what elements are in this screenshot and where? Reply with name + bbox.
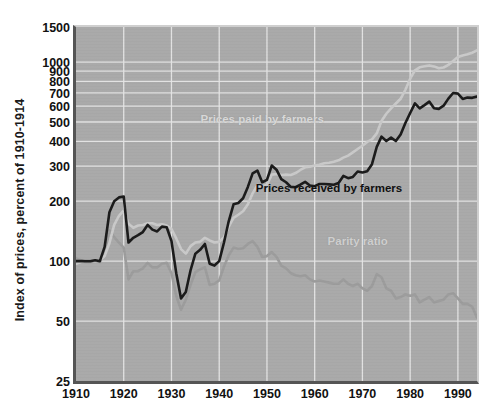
plot-area [73,25,479,384]
annotation-prices_paid: Prices paid by farmers [200,114,323,126]
y-tick-label: 600 [24,101,70,114]
annotation-parity_ratio: Parity ratio [328,236,388,248]
y-tick-label: 500 [24,117,70,130]
x-tick-label: 1930 [158,388,186,401]
x-tick-label: 1990 [444,388,472,401]
x-tick-label: 1920 [110,388,138,401]
chart-figure: Index of prices, percent of 1910-1914 15… [0,0,500,420]
series-line-parity_ratio [76,230,477,317]
y-tick-label: 700 [24,88,70,101]
x-tick-label: 1940 [205,388,233,401]
annotation-prices_received: Prices received by farmers [256,184,402,196]
y-tick-label: 400 [24,136,70,149]
x-tick-label: 1950 [253,388,281,401]
y-tick-label: 100 [24,256,70,269]
y-axis-tick-labels: 150010009008007006005004003002001005025 [22,0,70,420]
y-tick-label: 300 [24,161,70,174]
series-line-prices_paid [76,50,477,263]
y-tick-label: 200 [24,196,70,209]
plot-svg [76,27,477,381]
y-tick-label: 1500 [24,22,70,35]
gridlines [76,27,477,381]
x-tick-label: 1910 [62,388,90,401]
x-tick-label: 1960 [301,388,329,401]
x-tick-label: 1980 [396,388,424,401]
x-tick-label: 1970 [349,388,377,401]
y-tick-label: 50 [24,316,70,329]
